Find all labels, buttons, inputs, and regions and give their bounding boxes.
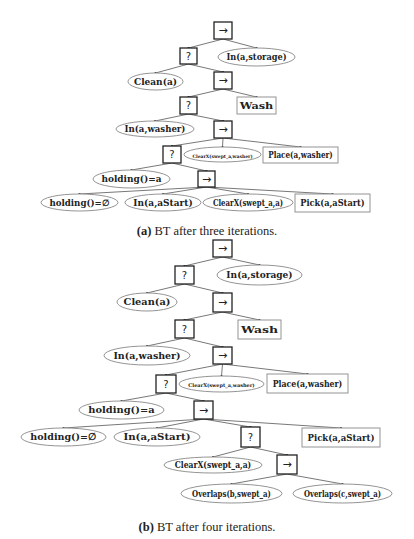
edge-b_fb2-to-b_seq3 — [185, 338, 223, 347]
node-a_holding_empty: holding()=∅ — [41, 194, 118, 211]
fallback-question-icon: ? — [186, 51, 191, 62]
node-b_seq3: → — [213, 347, 232, 364]
node-a_fb1: ? — [180, 48, 197, 64]
node-label: In(a,storage) — [226, 52, 286, 63]
node-b_clearx_washer: ClearX(swept_a,washer) — [179, 376, 264, 392]
node-a_clean: Clean(a) — [128, 73, 183, 90]
node-a_in_storage: In(a,storage) — [218, 48, 295, 66]
edge-a_seq2-to-a_wash — [223, 89, 257, 97]
node-label: ClearX(swept_a,washer) — [188, 382, 254, 389]
node-label: Clean(a) — [124, 296, 171, 307]
sequence-arrow-icon: → — [199, 404, 208, 417]
node-b_in_storage: In(a,storage) — [217, 265, 302, 285]
node-b_holding_a: holding()=a — [79, 401, 164, 419]
caption-text: BT after four iterations. — [154, 520, 276, 534]
sequence-arrow-icon: → — [218, 24, 227, 37]
node-b_overlaps_c: Overlaps(c,swept_a) — [293, 484, 392, 503]
node-a_holding_a: holding()=a — [93, 170, 170, 188]
edge-b_seq4-to-b_holding_empty — [64, 419, 204, 428]
behavior-tree-figure: →?In(a,storage)Clean(a)→?WashIn(a,washer… — [0, 0, 414, 539]
edge-a_fb1-to-a_clean — [156, 64, 189, 73]
node-label: Overlaps(b,swept_a) — [192, 488, 271, 500]
edge-b_fb3-to-b_seq4 — [166, 393, 204, 401]
node-a_place: Place(a,washer) — [263, 147, 338, 163]
edge-a_root-to-a_fb1 — [189, 39, 224, 48]
node-a_seq3: → — [214, 121, 232, 138]
node-label: Place(a,washer) — [268, 150, 333, 161]
node-b_pick: Pick(a,aStart) — [302, 428, 380, 447]
node-a_root: → — [214, 22, 232, 39]
node-a_clearx_washer: ClearX(swept_a,washer) — [184, 147, 261, 162]
node-label: Place(a,washer) — [273, 378, 343, 390]
caption-text: BT after three iterations. — [151, 224, 277, 238]
node-label: In(a,washer) — [113, 350, 180, 362]
node-b_fb1: ? — [175, 266, 194, 284]
caption-subfigure-b: (b) BT after four iterations. — [0, 520, 414, 535]
sequence-arrow-icon: → — [218, 74, 227, 87]
edge-a_fb1-to-a_seq2 — [189, 64, 224, 72]
sequence-arrow-icon: → — [218, 123, 227, 136]
node-label: Clean(a) — [134, 77, 177, 87]
node-b_fb4: ? — [241, 427, 260, 447]
node-b_clean: Clean(a) — [117, 293, 177, 311]
edge-b_fb4-to-b_clearx_a — [213, 447, 251, 457]
node-label: Pick(a,aStart) — [300, 198, 365, 209]
node-b_fb2: ? — [175, 320, 194, 338]
edge-b_root-to-b_in_storage — [223, 257, 260, 265]
node-a_fb3: ? — [163, 146, 181, 163]
edge-b_seq3-to-b_fb3 — [166, 364, 223, 375]
edge-a_seq3-to-a_clearx_washer — [223, 138, 224, 147]
node-label: Wash — [240, 324, 279, 335]
edge-b_seq3-to-b_clearx_washer — [222, 364, 223, 376]
node-label: ClearX(swept_a,a) — [213, 198, 283, 209]
node-a_pick: Pick(a,aStart) — [295, 194, 370, 212]
edge-b_fb1-to-b_clean — [147, 284, 185, 293]
edge-a_fb2-to-a_in_washer — [155, 114, 189, 121]
edge-a_fb3-to-a_seq4 — [172, 163, 207, 171]
node-a_in_astart: In(a,aStart) — [125, 194, 201, 211]
edge-b_seq2-to-b_wash — [223, 312, 260, 320]
node-b_fb3: ? — [156, 375, 176, 393]
edge-a_seq3-to-a_fb3 — [172, 138, 223, 146]
edge-a_seq2-to-a_fb2 — [189, 89, 224, 97]
edge-b_seq3-to-b_place — [223, 364, 308, 374]
node-a_clearx_a: ClearX(swept_a,a) — [203, 194, 293, 211]
fallback-question-icon: ? — [248, 432, 253, 443]
node-label: In(a,aStart) — [133, 198, 192, 209]
node-a_seq2: → — [214, 72, 232, 89]
node-label: Wash — [238, 101, 273, 111]
nodes-layer: →?In(a,storage)Clean(a)→?WashIn(a,washer… — [21, 22, 392, 503]
edge-b_seq2-to-b_fb2 — [185, 312, 223, 320]
node-b_clearx_a: ClearX(swept_a,a) — [164, 457, 262, 473]
node-label: Overlaps(c,swept_a) — [304, 488, 381, 500]
edge-b_fb3-to-b_holding_a — [122, 393, 167, 401]
edge-a_seq3-to-a_place — [223, 138, 301, 147]
sequence-arrow-icon: → — [218, 296, 227, 309]
edge-b_seq5-to-b_overlaps_c — [287, 474, 343, 484]
node-a_seq4: → — [198, 171, 215, 187]
node-label: holding()=a — [88, 404, 155, 415]
node-b_seq5: → — [277, 455, 297, 474]
fallback-question-icon: ? — [182, 324, 187, 335]
edge-b_seq5-to-b_overlaps_b — [232, 474, 288, 484]
edge-b_fb4-to-b_seq5 — [251, 447, 288, 455]
node-a_wash: Wash — [237, 97, 276, 114]
caption-label: (b) — [139, 520, 154, 534]
edge-b_fb1-to-b_seq2 — [185, 284, 223, 293]
node-b_in_washer: In(a,washer) — [104, 346, 190, 365]
node-label: holding()=a — [101, 174, 161, 184]
node-b_place: Place(a,washer) — [267, 374, 348, 393]
edge-b_root-to-b_fb1 — [185, 257, 223, 266]
node-b_seq2: → — [213, 293, 232, 312]
node-a_in_washer: In(a,washer) — [116, 121, 194, 137]
caption-label: (a) — [137, 224, 152, 238]
node-label: In(a,storage) — [226, 269, 292, 281]
node-label: Pick(a,aStart) — [307, 432, 374, 444]
node-b_seq4: → — [194, 401, 213, 419]
edge-a_fb2-to-a_seq3 — [189, 114, 224, 121]
edge-b_seq4-to-b_pick — [204, 419, 342, 428]
fallback-question-icon: ? — [163, 379, 168, 390]
edge-a_root-to-a_in_storage — [223, 39, 257, 48]
caption-subfigure-a: (a) BT after three iterations. — [0, 224, 414, 239]
node-b_in_astart: In(a,aStart) — [114, 428, 200, 446]
